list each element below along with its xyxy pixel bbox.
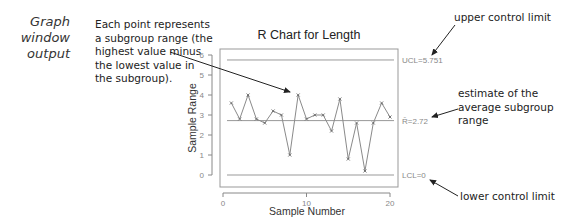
data-point-marker <box>389 116 392 119</box>
y-tick-label: 6 <box>200 51 205 60</box>
center-line-label: R̄=2.72 <box>402 117 429 126</box>
rbar-pointer-arrow <box>432 109 458 117</box>
y-axis: 0123456 <box>200 51 212 180</box>
y-tick-label: 5 <box>200 71 205 80</box>
y-tick-label: 3 <box>200 111 205 120</box>
r-chart: R Chart for Length 0123456 01020 Sample … <box>0 0 572 224</box>
range-series <box>230 94 392 173</box>
x-axis-title: Sample Number <box>269 205 345 217</box>
y-tick-label: 1 <box>200 151 205 160</box>
y-tick-label: 0 <box>200 171 205 180</box>
y-tick-label: 4 <box>200 91 205 100</box>
lcl-line-label: LCL=0 <box>402 171 426 180</box>
chart-title: R Chart for Length <box>258 28 361 42</box>
x-tick-label: 0 <box>221 199 226 208</box>
y-tick-label: 2 <box>200 131 205 140</box>
range-line <box>231 95 390 171</box>
x-tick-label: 20 <box>386 199 395 208</box>
ucl-line-label: UCL=5.751 <box>402 56 443 65</box>
ucl-pointer-arrow <box>432 25 455 55</box>
y-axis-title: Sample Range <box>186 83 198 153</box>
lcl-pointer-arrow <box>430 180 458 196</box>
